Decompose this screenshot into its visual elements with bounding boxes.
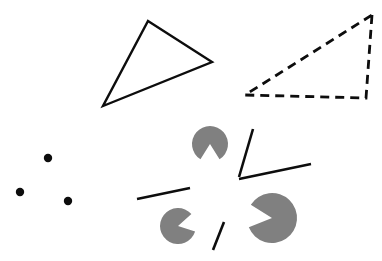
canvas-background <box>0 0 382 261</box>
dot-left <box>16 188 24 196</box>
dot-upper <box>44 154 52 162</box>
dot-lower <box>64 197 72 205</box>
figure-canvas <box>0 0 382 261</box>
figure-svg <box>0 0 382 261</box>
